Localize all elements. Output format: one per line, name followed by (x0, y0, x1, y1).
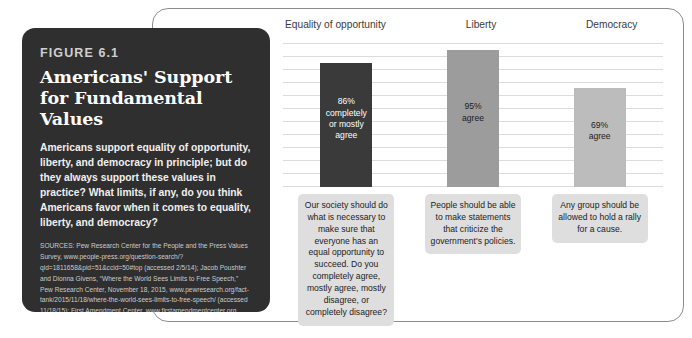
caption-slot-democracy: Any group should be allowed to hold a ra… (536, 194, 663, 243)
question-box-equality: Our society should do what is necessary … (298, 194, 394, 326)
bar-value-label-liberty: 95%agree (460, 101, 486, 124)
column-header-democracy: Democracy (546, 18, 677, 40)
caption-slot-liberty: People should be able to make statements… (410, 194, 537, 254)
bar-democracy[interactable]: 69%agree (574, 88, 626, 187)
figure-sources: SOURCES: Pew Research Center for the Peo… (40, 241, 252, 312)
caption-slot-equality: Our society should do what is necessary … (283, 194, 410, 326)
question-box-liberty: People should be able to make statements… (425, 194, 521, 254)
bar-equality-of-opportunity[interactable]: 86%completelyor mostlyagree (320, 63, 372, 187)
figure-6-1: FIGURE 6.1 Americans' Support for Fundam… (0, 0, 692, 338)
bar-slot-liberty: 95%agree (410, 43, 537, 187)
column-header-liberty: Liberty (416, 18, 547, 40)
bar-group: 86%completelyor mostlyagree 95%agree 69%… (283, 43, 663, 187)
bar-value-label-democracy: 69%agree (587, 120, 613, 143)
figure-number: FIGURE 6.1 (40, 46, 252, 60)
figure-caption-card: FIGURE 6.1 Americans' Support for Fundam… (22, 28, 270, 312)
bar-slot-democracy: 69%agree (536, 43, 663, 187)
figure-title: Americans' Support for Fundamental Value… (40, 67, 252, 131)
chart-column-headers: Equality of opportunity Liberty Democrac… (283, 18, 677, 40)
column-header-equality: Equality of opportunity (283, 18, 416, 40)
bar-slot-equality: 86%completelyor mostlyagree (283, 43, 410, 187)
bar-chart: Equality of opportunity Liberty Democrac… (283, 18, 677, 318)
plot-area: 86%completelyor mostlyagree 95%agree 69%… (283, 43, 663, 187)
bar-liberty[interactable]: 95%agree (447, 50, 499, 187)
bar-value-label-equality: 86%completelyor mostlyagree (324, 96, 369, 141)
question-captions: Our society should do what is necessary … (283, 194, 663, 326)
question-box-democracy: Any group should be allowed to hold a ra… (552, 194, 648, 243)
figure-description: Americans support equality of opportunit… (40, 140, 252, 231)
